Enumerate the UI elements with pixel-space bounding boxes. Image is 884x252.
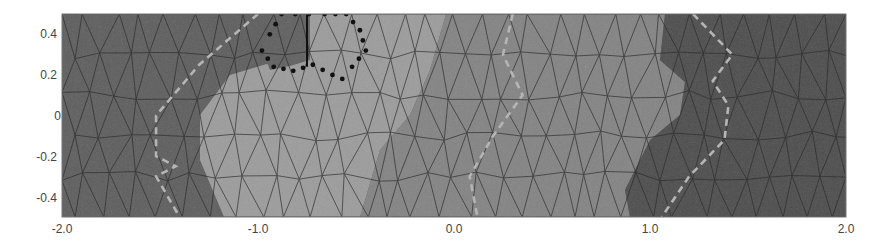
mesh-plot: -2.0 -1.0 0.0 1.0 2.0 0.4 0.2 0 -0.2 -0.… [0,0,884,252]
boundary-dot [310,62,315,67]
plot-canvas [0,0,884,252]
y-tick-label: 0.2 [17,68,57,82]
boundary-dot [260,48,265,53]
boundary-dot [265,56,270,61]
boundary-dot [330,73,335,78]
x-tick-label: 2.0 [838,222,855,236]
y-tick-label: 0 [21,109,61,123]
boundary-dot [267,32,272,37]
boundary-dot [360,38,365,43]
x-tick-label: 1.0 [642,222,659,236]
boundary-dot [363,48,368,53]
x-tick-label: -1.0 [248,222,269,236]
boundary-dot [351,20,356,25]
boundary-dot [301,65,306,70]
y-tick-label: -0.2 [17,150,57,164]
x-tick-label: 0.0 [446,222,463,236]
boundary-dot [291,68,296,73]
boundary-dot [357,56,362,61]
boundary-dot [281,66,286,71]
boundary-dot [358,28,363,33]
y-tick-label: 0.4 [17,27,57,41]
boundary-dot [271,64,276,69]
boundary-dot [340,77,345,82]
boundary-dot [350,64,355,69]
boundary-dot [320,67,325,72]
boundary-dot [273,22,278,27]
texture-overlay [62,14,846,217]
y-tick-label: -0.4 [17,191,57,205]
x-tick-label: -2.0 [52,222,73,236]
